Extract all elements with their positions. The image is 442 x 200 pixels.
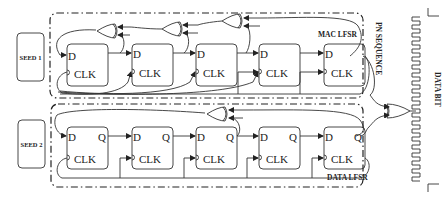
mac-flip-flop-2: D CLK (132, 44, 173, 86)
clk-label: CLK (266, 67, 288, 79)
data-flip-flop-4: D Q CLK (259, 127, 300, 169)
d-label: D (197, 131, 205, 143)
mac-flip-flop-1: D CLK (67, 44, 108, 86)
data-lfsr-container (51, 104, 363, 187)
d-label: D (197, 48, 205, 60)
clk-label: CLK (266, 153, 288, 165)
q-label: Q (162, 131, 170, 143)
d-label: D (260, 48, 268, 60)
d-label: D (325, 131, 333, 143)
q-label: Q (226, 131, 234, 143)
clk-label: CLK (74, 153, 96, 165)
clk-label: CLK (139, 153, 161, 165)
data-flip-flop-5: D Q CLK (324, 127, 365, 169)
d-label: D (133, 131, 141, 143)
pn-sequence-label: PN SEQUENCE (374, 22, 383, 75)
q-label: Q (354, 131, 362, 143)
seed-1-label: SEED 1 (20, 54, 42, 61)
mac-flip-flop-4: D CLK (259, 44, 300, 86)
d-label: D (260, 131, 268, 143)
mac-lfsr-container (50, 13, 363, 98)
clk-label: CLK (203, 153, 225, 165)
mac-flip-flop-5: D CLK (324, 44, 365, 86)
data-flip-flop-3: D Q CLK (196, 127, 237, 169)
clk-label: CLK (203, 67, 225, 79)
data-flip-flop-2: D Q CLK (132, 127, 173, 169)
d-label: D (68, 131, 76, 143)
d-label: D (325, 48, 333, 60)
mac-lfsr-title: MAC LFSR (318, 30, 358, 39)
d-label: D (133, 48, 141, 60)
mac-xor-gate-1 (97, 24, 130, 53)
d-label: D (68, 50, 76, 62)
q-label: Q (98, 131, 106, 143)
seed-1-block: SEED 1 (17, 33, 44, 81)
mac-flip-flop-3: D CLK (196, 44, 237, 86)
data-bit-label: DATA BIT (433, 72, 442, 107)
lfsr-diagram: SEED 1 SEED 2 MAC LFSR DATA LFSR D CLK D… (0, 0, 442, 200)
clk-label: CLK (139, 67, 161, 79)
q-label: Q (289, 131, 297, 143)
seed-2-block: SEED 2 (18, 120, 45, 168)
data-flip-flop-1: D Q CLK (67, 127, 108, 169)
clk-label: CLK (331, 153, 353, 165)
clk-label: CLK (331, 67, 353, 79)
clk-label: CLK (74, 68, 96, 80)
seed-2-label: SEED 2 (21, 141, 43, 148)
